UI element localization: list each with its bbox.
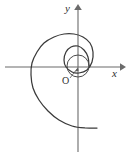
spiral-figure: y x O <box>0 0 129 157</box>
y-axis-arrowhead <box>74 4 82 10</box>
origin-label: O <box>62 76 69 86</box>
y-axis-label: y <box>65 3 70 14</box>
x-axis-label: x <box>112 68 117 79</box>
x-axis-arrowhead <box>120 63 126 71</box>
y-axis <box>74 4 82 152</box>
